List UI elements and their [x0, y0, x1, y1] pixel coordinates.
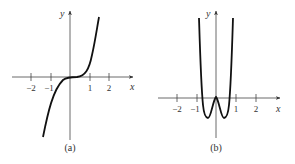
figure: −2 −1 1 2 x y (a) −2 −1 1 2 x y (b)	[0, 0, 295, 164]
y-axis-label: y	[59, 8, 65, 19]
tick-label: 1	[88, 83, 93, 93]
tick-label: −2	[26, 83, 36, 93]
tick-label: 2	[254, 104, 259, 114]
tick-label: −1	[44, 83, 54, 93]
x-axis-label: x	[129, 81, 135, 92]
caption-a: (a)	[64, 142, 75, 154]
y-axis-label: y	[205, 8, 211, 19]
panel-b: −2 −1 1 2 x y (b)	[158, 8, 281, 154]
caption-b: (b)	[210, 142, 222, 154]
tick-label: 2	[107, 83, 112, 93]
tick-label: 1	[234, 104, 239, 114]
tick-label: −2	[172, 104, 182, 114]
panel-a: −2 −1 1 2 x y (a)	[12, 8, 135, 154]
tick-label: −1	[190, 104, 200, 114]
x-axis-label: x	[275, 103, 281, 114]
